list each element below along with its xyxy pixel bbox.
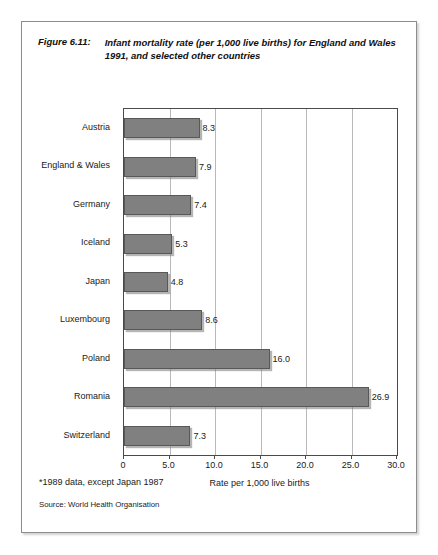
bar-row: 26.9 — [124, 378, 397, 416]
bar-series: 8.37.97.45.34.88.616.026.97.3 — [124, 109, 397, 455]
category-axis-labels: AustriaEngland & WalesGermanyIcelandJapa… — [22, 108, 117, 454]
bar-row: 7.4 — [124, 186, 397, 224]
bar-row: 7.3 — [124, 417, 397, 455]
bar-value-label: 7.4 — [194, 195, 207, 215]
bar-value-label: 4.8 — [171, 272, 184, 292]
bar-row: 16.0 — [124, 340, 397, 378]
bar — [124, 234, 172, 254]
x-tick-label: 20.0 — [296, 460, 314, 470]
bar-value-label: 5.3 — [175, 234, 188, 254]
bar — [124, 426, 190, 446]
category-label: Japan — [22, 262, 117, 300]
bar-row: 8.6 — [124, 301, 397, 339]
bar-row: 7.9 — [124, 147, 397, 185]
bar-row: 8.3 — [124, 109, 397, 147]
x-tick-mark — [169, 455, 170, 459]
x-tick-mark — [305, 455, 306, 459]
x-tick-label: 5.0 — [162, 460, 175, 470]
bar-row: 4.8 — [124, 263, 397, 301]
x-tick-mark — [214, 455, 215, 459]
bar — [124, 272, 168, 292]
category-label: Romania — [22, 377, 117, 415]
figure-footnote: *1989 data, except Japan 1987 — [39, 477, 164, 487]
category-label: Switzerland — [22, 416, 117, 454]
bar-value-label: 26.9 — [372, 387, 390, 407]
bar — [124, 387, 369, 407]
bar — [124, 349, 270, 369]
bar-row: 5.3 — [124, 224, 397, 262]
bar — [124, 310, 202, 330]
x-tick-mark — [123, 455, 124, 459]
bar-value-label: 7.3 — [193, 426, 206, 446]
figure-container: Figure 6.11: Infant mortality rate (per … — [21, 21, 417, 533]
plot-area: 8.37.97.45.34.88.616.026.97.3 — [123, 108, 398, 456]
x-tick-label: 0 — [120, 460, 125, 470]
x-tick-label: 15.0 — [251, 460, 269, 470]
bar-value-label: 8.6 — [205, 310, 218, 330]
bar-value-label: 8.3 — [203, 118, 216, 138]
x-axis-title: Rate per 1,000 live births — [123, 478, 396, 488]
bar — [124, 195, 191, 215]
x-tick-label: 25.0 — [342, 460, 360, 470]
x-tick-mark — [396, 455, 397, 459]
figure-caption-text: Infant mortality rate (per 1,000 live bi… — [105, 36, 404, 62]
category-label: Poland — [22, 339, 117, 377]
figure-caption: Figure 6.11: Infant mortality rate (per … — [38, 36, 404, 62]
x-tick-label: 10.0 — [205, 460, 223, 470]
x-tick-mark — [351, 455, 352, 459]
category-label: Austria — [22, 108, 117, 146]
bar — [124, 118, 200, 138]
category-label: Iceland — [22, 223, 117, 261]
x-axis-ticks: 05.010.015.020.025.030.0 — [123, 455, 396, 473]
x-tick-label: 30.0 — [387, 460, 405, 470]
figure-source: Source: World Health Organisation — [39, 500, 159, 509]
figure-number-label: Figure 6.11: — [38, 36, 91, 47]
category-label: Luxembourg — [22, 300, 117, 338]
category-label: England & Wales — [22, 146, 117, 184]
bar — [124, 157, 196, 177]
bar-value-label: 16.0 — [273, 349, 291, 369]
bar-value-label: 7.9 — [199, 157, 212, 177]
bar-chart: AustriaEngland & WalesGermanyIcelandJapa… — [22, 66, 416, 486]
x-tick-mark — [260, 455, 261, 459]
category-label: Germany — [22, 185, 117, 223]
